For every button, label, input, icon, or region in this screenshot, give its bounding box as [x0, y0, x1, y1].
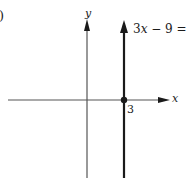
- figure-part-label: ): [0, 8, 4, 23]
- y-axis: [84, 19, 90, 178]
- line-arrow-icon: [120, 20, 128, 33]
- y-axis-label: y: [84, 7, 92, 20]
- y-axis-arrow-icon: [84, 19, 90, 31]
- equation-label: 3x − 9 = 0: [133, 22, 186, 36]
- x-axis-label: x: [172, 92, 179, 105]
- x-axis-arrow-icon: [158, 97, 170, 103]
- x-axis: [8, 97, 170, 103]
- coordinate-diagram: ) x y 3x − 9 = 0 3: [0, 0, 186, 185]
- x-intercept-label: 3: [127, 103, 134, 116]
